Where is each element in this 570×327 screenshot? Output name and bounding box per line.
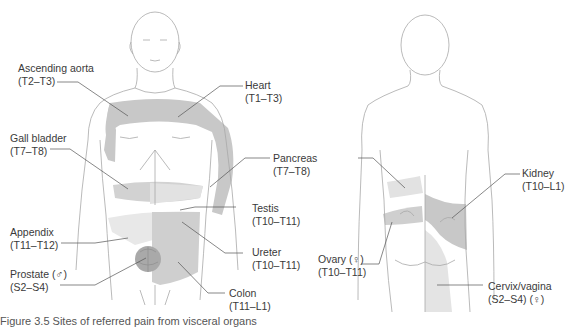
label-segments: (T2–T3) [18, 75, 94, 88]
label-name: Testis [252, 202, 300, 215]
label-name: Colon [229, 287, 271, 300]
label-name: Gall bladder [10, 132, 67, 145]
label-segments: (T10–T11) [252, 259, 300, 272]
label-ascending-aorta: Ascending aorta (T2–T3) [18, 62, 94, 88]
label-name: Kidney [522, 167, 565, 180]
label-testis: Testis (T10–T11) [252, 202, 300, 228]
label-segments: (T10–T11) [318, 266, 366, 279]
label-segments: (S2–S4) [10, 281, 67, 294]
label-segments: (T1–T3) [245, 92, 282, 105]
label-gall-bladder: Gall bladder (T7–T8) [10, 132, 67, 158]
label-prostate: Prostate (♂) (S2–S4) [10, 268, 67, 294]
label-name: Ureter [252, 246, 300, 259]
label-segments: (T11–L1) [229, 300, 271, 313]
label-name: Ovary (♀) [318, 253, 366, 266]
label-segments: (T7–T8) [273, 165, 317, 178]
label-heart: Heart (T1–T3) [245, 79, 282, 105]
label-segments: (S2–S4) (♀) [488, 293, 552, 306]
label-name: Heart [245, 79, 282, 92]
label-ureter: Ureter (T10–T11) [252, 246, 300, 272]
label-name: Prostate (♂) [10, 268, 67, 281]
label-name: Ascending aorta [18, 62, 94, 75]
label-ovary: Ovary (♀) (T10–T11) [318, 253, 366, 279]
front-shaded-regions [104, 99, 233, 285]
label-colon: Colon (T11–L1) [229, 287, 271, 313]
label-appendix: Appendix (T11–T12) [10, 226, 58, 252]
label-name: Cervix/vagina [488, 280, 552, 293]
figure-caption: Figure 3.5 Sites of referred pain from v… [0, 315, 257, 327]
label-segments: (T10–L1) [522, 180, 565, 193]
label-segments: (T11–T12) [10, 239, 58, 252]
label-pancreas: Pancreas (T7–T8) [273, 152, 317, 178]
label-segments: (T7–T8) [10, 145, 67, 158]
label-name: Pancreas [273, 152, 317, 165]
label-name: Appendix [10, 226, 58, 239]
label-cervix-vagina: Cervix/vagina (S2–S4) (♀) [488, 280, 552, 306]
label-kidney: Kidney (T10–L1) [522, 167, 565, 193]
label-segments: (T10–T11) [252, 215, 300, 228]
